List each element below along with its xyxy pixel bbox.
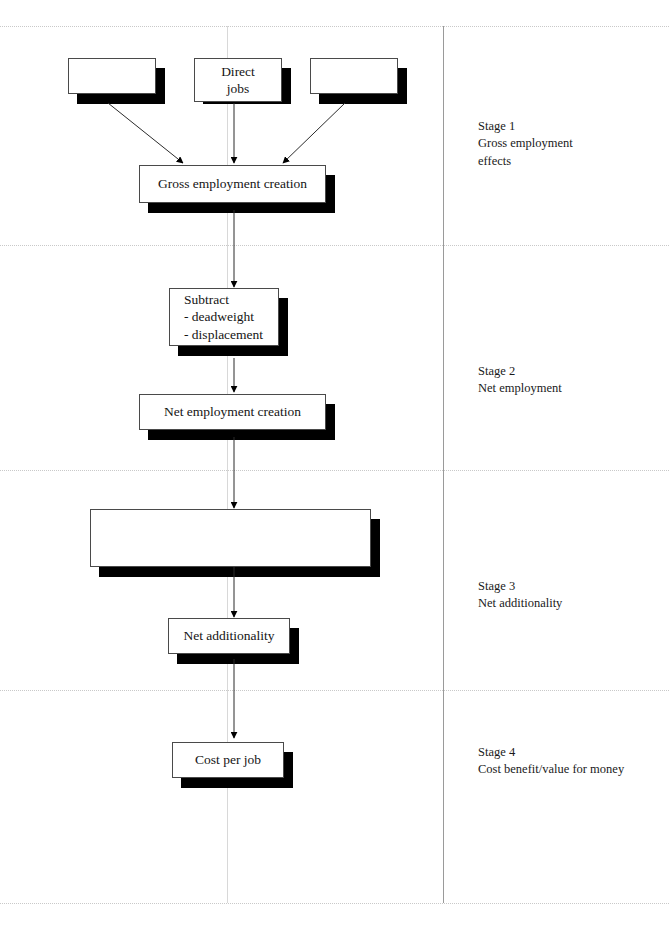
stage-divider-1-2 bbox=[0, 245, 669, 246]
box-gross-employment-creation[interactable]: Gross employment creation bbox=[139, 165, 326, 203]
box-direct-jobs-label: Direct jobs bbox=[221, 63, 255, 98]
box-cost-per-job-label: Cost per job bbox=[195, 751, 261, 768]
box-net-employment-creation[interactable]: Net employment creation bbox=[139, 394, 326, 430]
stage-divider-3-4 bbox=[0, 690, 669, 691]
stage-divider-2-3 bbox=[0, 470, 669, 471]
box-net-additionality-label: Net additionality bbox=[183, 627, 274, 644]
diagram-canvas: Direct jobs Gross employment creation Su… bbox=[0, 0, 669, 933]
box-cost-per-job[interactable]: Cost per job bbox=[172, 742, 284, 778]
box-subtract[interactable]: Subtract - deadweight - displacement bbox=[169, 288, 279, 346]
stage-divider-top bbox=[0, 26, 669, 27]
column-rule-main bbox=[443, 26, 444, 903]
box-direct-jobs[interactable]: Direct jobs bbox=[194, 58, 282, 102]
box-top-right[interactable] bbox=[310, 58, 398, 94]
stage-label-2: Stage 2 Net employment bbox=[478, 363, 562, 398]
stage-divider-bottom bbox=[0, 903, 669, 904]
box-gross-employment-creation-label: Gross employment creation bbox=[158, 175, 307, 192]
box-subtract-label: Subtract - deadweight - displacement bbox=[184, 291, 263, 343]
stage-label-1: Stage 1 Gross employment effects bbox=[478, 118, 573, 170]
box-stage3-large[interactable] bbox=[90, 509, 371, 567]
stage-label-4: Stage 4 Cost benefit/value for money bbox=[478, 744, 624, 779]
box-net-employment-creation-label: Net employment creation bbox=[164, 403, 301, 420]
box-net-additionality[interactable]: Net additionality bbox=[168, 618, 290, 654]
stage-label-3: Stage 3 Net additionality bbox=[478, 578, 562, 613]
box-top-left[interactable] bbox=[68, 58, 156, 94]
